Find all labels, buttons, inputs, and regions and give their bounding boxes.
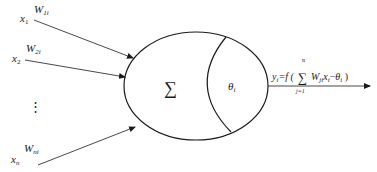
svg-text:yi=f (: yi=f ( — [271, 71, 294, 84]
input-label-n: xn — [10, 153, 20, 167]
svg-text:Wjixi−θi ): Wjixi−θi ) — [311, 71, 348, 84]
threshold-label: θi — [228, 80, 235, 94]
svg-text:∑: ∑ — [298, 70, 307, 85]
input-arrow-1 — [34, 20, 133, 58]
weight-label-1: W1i — [34, 3, 49, 17]
neuron-diagram: x1 W1i x2 W2i ⋮ xn Wni ∑ θi yi=f ( n ∑ j… — [0, 0, 377, 172]
output-formula: yi=f ( n ∑ j=1 Wjixi−θi ) — [271, 57, 348, 94]
svg-text:j=1: j=1 — [295, 88, 305, 94]
input-arrow-2 — [25, 60, 125, 77]
input-label-1: x1 — [19, 12, 29, 26]
svg-text:n: n — [302, 57, 305, 63]
weight-label-2: W2i — [26, 42, 41, 56]
input-label-2: x2 — [11, 52, 21, 66]
summation-symbol: ∑ — [164, 78, 177, 98]
input-arrow-n — [38, 127, 135, 165]
weight-label-n: Wni — [24, 142, 39, 156]
ellipsis: ⋮ — [29, 99, 42, 114]
neuron-body — [124, 32, 268, 140]
